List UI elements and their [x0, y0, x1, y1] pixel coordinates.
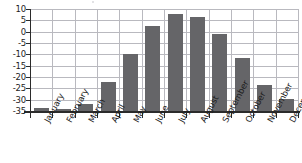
x-axis-tick-label: March — [87, 98, 107, 125]
x-axis-tick-label: January — [43, 92, 66, 124]
x-axis-tick-label: May — [132, 105, 148, 124]
x-axis-tick-label: June — [154, 104, 170, 124]
x-axis-tick-label: October — [244, 91, 268, 125]
x-axis-tick-label: April — [110, 103, 127, 124]
bar-chart: 1050-5-10-15-20-25-30-35 JanuaryFebruary… — [0, 0, 302, 163]
x-axis-tick-label: July — [177, 107, 192, 124]
x-axis-tick-labels: JanuaryFebruaryMarchAprilMayJuneJulyAugu… — [0, 0, 302, 163]
x-axis-tick-label: August — [199, 94, 221, 124]
